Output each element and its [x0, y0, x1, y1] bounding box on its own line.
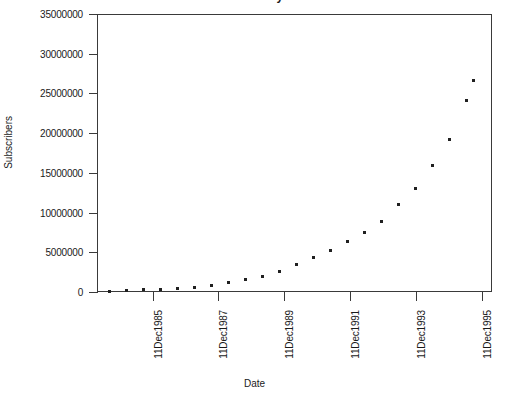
x-axis-title: Date: [0, 378, 509, 389]
x-tick-mark: [350, 292, 351, 301]
x-tick-mark: [482, 292, 483, 301]
x-tick-label: 11Dec1989: [284, 310, 295, 359]
chart-figure: Subscribers by Date 05000000100000001500…: [0, 0, 509, 400]
x-tick-mark: [153, 292, 154, 301]
x-tick-mark: [218, 292, 219, 301]
x-tick-mark: [284, 292, 285, 301]
x-tick-label: 11Dec1991: [350, 310, 361, 359]
x-tick-label: 11Dec1987: [218, 310, 229, 359]
x-axis: 11Dec198511Dec198711Dec198911Dec199111De…: [0, 0, 509, 400]
x-tick-label: 11Dec1985: [153, 310, 164, 359]
x-tick-mark: [416, 292, 417, 301]
x-tick-label: 11Dec1993: [416, 310, 427, 359]
x-tick-label: 11Dec1995: [482, 310, 493, 359]
